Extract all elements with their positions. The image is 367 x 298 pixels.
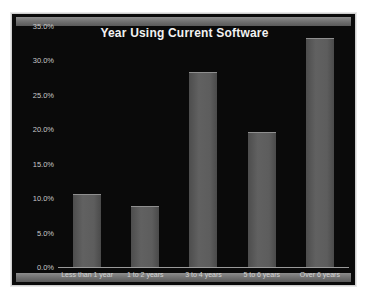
bar[interactable] [306, 38, 334, 267]
bar-series [58, 26, 349, 267]
y-axis-tick-label: 15.0% [33, 159, 54, 168]
x-axis-tick-label: 5 to 6 years [233, 271, 291, 278]
bar-slot [233, 26, 291, 267]
y-axis-tick-label: 10.0% [33, 194, 54, 203]
y-axis-tick-label: 20.0% [33, 125, 54, 134]
bar-slot [116, 26, 174, 267]
x-axis-tick-label: Less than 1 year [58, 271, 116, 278]
y-axis-tick-label: 35.0% [33, 22, 54, 31]
bar[interactable] [131, 206, 159, 267]
plot-area: 0.0%5.0%10.0%15.0%20.0%25.0%30.0%35.0% L… [12, 26, 357, 275]
chart-frame: Year Using Current Software 0.0%5.0%10.0… [11, 13, 356, 286]
y-axis-tick-label: 25.0% [33, 90, 54, 99]
x-axis-tick-label: Over 6 years [291, 271, 349, 278]
bar-slot [174, 26, 232, 267]
bar-slot [291, 26, 349, 267]
y-axis-tick-label: 30.0% [33, 56, 54, 65]
x-axis-tick-label: 3 to 4 years [174, 271, 232, 278]
bar[interactable] [189, 72, 217, 267]
x-axis-tick-label: 1 to 2 years [116, 271, 174, 278]
bar-slot [58, 26, 116, 267]
x-axis: Less than 1 year1 to 2 years3 to 4 years… [58, 271, 349, 287]
bar[interactable] [73, 194, 101, 267]
y-axis-tick-label: 0.0% [37, 263, 54, 272]
y-axis-tick-label: 5.0% [37, 228, 54, 237]
x-axis-line [58, 267, 349, 268]
frame-accent-top-bar [16, 17, 351, 26]
y-axis: 0.0%5.0%10.0%15.0%20.0%25.0%30.0%35.0% [12, 26, 58, 275]
bar[interactable] [248, 132, 276, 267]
